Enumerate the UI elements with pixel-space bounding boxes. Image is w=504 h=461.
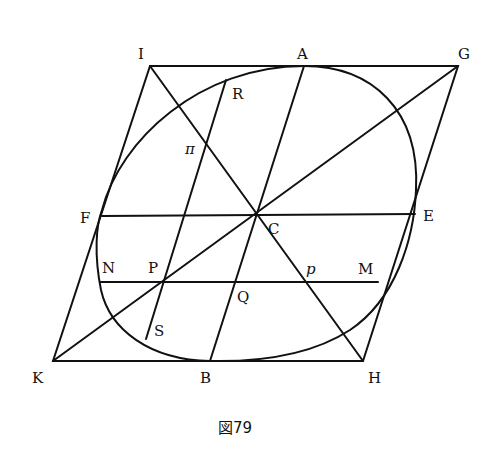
label-E: E: [423, 207, 434, 225]
label-Q: Q: [237, 288, 249, 306]
label-pi: π: [184, 140, 196, 158]
chord-RS: [146, 80, 226, 339]
label-I: I: [138, 45, 144, 63]
label-p-lower: p: [306, 260, 316, 278]
geometry-figure: I A G R π F C E N P p M Q S K B H 図79: [0, 0, 504, 461]
label-G: G: [458, 45, 470, 63]
label-K: K: [32, 369, 44, 387]
label-R: R: [232, 85, 244, 103]
label-P: P: [148, 259, 158, 277]
label-C: C: [268, 220, 279, 238]
label-S: S: [154, 322, 164, 340]
label-F: F: [80, 209, 90, 227]
figure-caption: 図79: [218, 419, 252, 437]
label-A: A: [296, 45, 308, 63]
label-M: M: [358, 260, 373, 278]
label-N: N: [102, 259, 115, 277]
label-B: B: [200, 369, 211, 387]
label-H: H: [368, 369, 381, 387]
